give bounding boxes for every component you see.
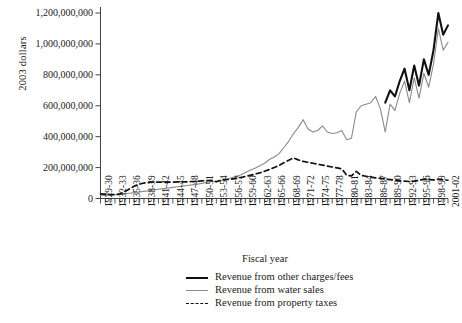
- legend-item: Revenue from property taxes: [186, 296, 353, 309]
- x-tick-label: 1974-75: [322, 175, 332, 207]
- x-tick-label: 1995-96: [423, 175, 433, 207]
- legend-swatch-icon: [186, 271, 208, 282]
- legend-swatch-icon: [186, 284, 208, 295]
- x-tick-label: 1962-63: [264, 175, 274, 207]
- x-axis-tick-labels: 1929-301932-331935-361938-391941-421944-…: [0, 0, 458, 255]
- legend-swatch-icon: [186, 297, 208, 308]
- legend-item: Revenue from other charges/fees: [186, 270, 353, 283]
- x-tick-label: 1977-78: [336, 175, 346, 207]
- x-tick-label: 1992-93: [409, 175, 419, 207]
- legend-label: Revenue from property taxes: [215, 297, 337, 308]
- x-tick-label: 1986-87: [380, 175, 390, 207]
- x-tick-label: 1998-99: [438, 175, 448, 207]
- legend-label: Revenue from water sales: [215, 284, 324, 295]
- x-tick-label: 1941-42: [162, 175, 172, 207]
- chart-legend: Revenue from other charges/feesRevenue f…: [186, 270, 353, 309]
- x-tick-label: 1989-90: [394, 175, 404, 207]
- x-tick-label: 1953-54: [220, 175, 230, 207]
- x-tick-label: 1965-66: [278, 175, 288, 207]
- x-tick-label: 1980-81: [351, 175, 361, 207]
- x-tick-label: 1932-33: [119, 175, 129, 207]
- legend-label: Revenue from other charges/fees: [215, 271, 353, 282]
- x-tick-label: 2001-02: [452, 175, 462, 207]
- x-tick-label: 1929-30: [105, 175, 115, 207]
- x-tick-label: 1968-69: [293, 175, 303, 207]
- x-tick-label: 1947-48: [191, 175, 201, 207]
- x-tick-label: 1971-72: [307, 175, 317, 207]
- x-tick-label: 1959-60: [249, 175, 259, 207]
- legend-item: Revenue from water sales: [186, 283, 353, 296]
- x-tick-label: 1956-57: [235, 175, 245, 207]
- x-tick-label: 1950-51: [206, 175, 216, 207]
- x-tick-label: 1938-39: [148, 175, 158, 207]
- x-axis-title: Fiscal year: [205, 253, 325, 264]
- x-tick-label: 1935-36: [133, 175, 143, 207]
- x-tick-label: 1983-84: [365, 175, 375, 207]
- x-tick-label: 1944-45: [177, 175, 187, 207]
